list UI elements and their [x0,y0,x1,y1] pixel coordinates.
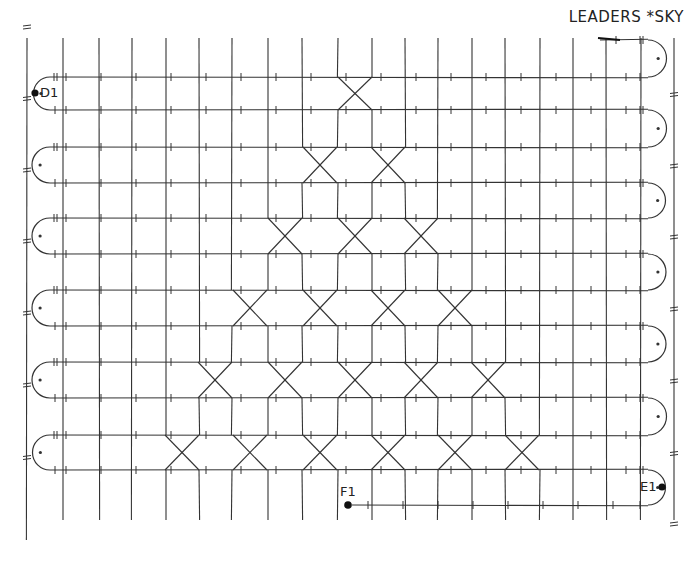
pin-dot [657,127,660,130]
margin-tick [23,28,31,29]
margin-tick [23,97,31,98]
pin-dot [656,270,659,273]
grid-vertical-line [337,470,338,520]
start-dot-e1 [658,483,665,490]
grid-vertical-line [437,398,438,435]
margin-tick [23,168,31,169]
margin-tick [670,307,678,308]
grid-vertical-line [437,470,438,520]
margin-tick [23,383,31,384]
pin-dot [39,163,42,166]
thread-row [50,325,648,326]
grid-vertical-line [337,183,338,218]
grid-vertical-line [337,38,338,77]
start-dot-f1 [344,501,352,509]
start-point-label-e1: E1 [640,479,657,494]
start-point-label-f1: F1 [340,484,356,499]
start-point-label-d1: D1 [40,85,58,100]
thread-row [50,253,648,254]
margin-tick [23,314,31,315]
grid-vertical-line [26,38,27,540]
margin-tick [670,382,678,383]
thread-row [50,77,648,78]
thread-row [50,435,648,436]
margin-tick [670,379,678,380]
grid-vertical-line [405,326,406,362]
margin-tick [670,164,678,165]
margin-tick [670,235,678,236]
thread-row [50,218,648,219]
margin-tick [670,525,678,526]
grid-vertical-line [302,470,303,520]
grid-vertical-line [199,398,200,435]
grid-vertical-line [199,470,200,520]
grid-vertical-line [231,470,232,520]
grid-vertical-line [437,254,438,290]
grid-vertical-line [231,38,232,290]
grid-vertical-line [505,470,506,520]
grid-vertical-line [337,254,338,290]
margin-tick [670,522,678,523]
margin-tick [670,93,678,94]
margin-tick [23,100,31,101]
margin-tick [670,452,678,453]
margin-tick [23,459,31,460]
thread-row [50,362,648,363]
margin-tick [670,238,678,239]
grid-vertical-line [606,38,607,520]
margin-tick [23,311,31,312]
thread-row [50,109,648,110]
pin-dot [39,306,42,309]
grid-vertical-line [302,398,303,435]
margin-tick [670,167,678,168]
pin-dot [656,342,659,345]
start-dot-d1 [31,89,38,96]
margin-tick [23,242,31,243]
grid-vertical-line [405,183,406,218]
grid-vertical-line [405,38,406,147]
pin-dot [657,415,660,418]
grid-vertical-line [505,398,506,435]
margin-tick [23,239,31,240]
grid-vertical-line [437,38,438,218]
margin-tick [23,171,31,172]
grid-vertical-line [337,326,338,362]
margin-tick [23,25,31,26]
pin-dot [39,234,42,237]
grid-vertical-line [302,254,303,290]
thread-row [50,397,648,398]
margin-tick [23,456,31,457]
lace-pricking-diagram [0,0,694,565]
margin-tick [670,455,678,456]
grid-vertical-line [231,398,232,435]
grid-vertical-line [539,38,540,435]
grid-vertical-line [405,398,406,435]
pin-dot [39,378,42,381]
grid-vertical-line [337,398,338,435]
pin-dot [656,199,659,202]
grid-vertical-line [302,183,303,218]
grid-vertical-line [337,110,338,147]
grid-vertical-line [199,38,200,362]
margin-tick [670,310,678,311]
grid-vertical-line [231,326,232,362]
grid-vertical-line [437,326,438,362]
grid-vertical-line [539,470,540,520]
grid-vertical-line [505,38,506,362]
grid-vertical-line [405,470,406,520]
pin-dot [657,57,660,60]
pin-dot [39,451,42,454]
grid-vertical-line [302,326,303,362]
thread-row [50,182,648,183]
thread-row [50,290,648,291]
thread-row [352,505,648,506]
thread-row [50,469,648,470]
margin-tick [23,386,31,387]
grid-vertical-line [405,254,406,290]
thread-row [50,147,648,148]
margin-tick [670,96,678,97]
grid-vertical-line [302,38,303,147]
